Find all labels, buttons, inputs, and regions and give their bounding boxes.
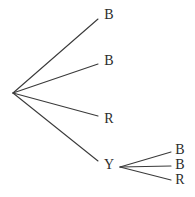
node-label-b1: B — [104, 7, 113, 22]
branch-root-to-b2 — [13, 64, 98, 93]
branch-y-to-b2 — [120, 166, 171, 167]
subnode-label-r1: R — [175, 172, 185, 187]
branch-root-to-y1 — [13, 93, 98, 161]
subnode-label-b1: B — [175, 142, 184, 157]
level1-labels: B B R Y — [104, 7, 114, 172]
branch-root-to-r1 — [13, 93, 98, 116]
probability-tree-diagram: B B R Y B B R — [0, 0, 195, 197]
subnode-label-b2: B — [175, 157, 184, 172]
node-label-y1: Y — [104, 157, 114, 172]
branch-root-to-b1 — [13, 19, 98, 93]
level1-branches — [13, 19, 98, 161]
subtree-branches — [120, 152, 171, 180]
node-label-r1: R — [104, 111, 114, 126]
branch-y-to-b1 — [120, 152, 171, 167]
branch-y-to-r1 — [120, 167, 171, 180]
subtree-labels: B B R — [175, 142, 185, 187]
node-label-b2: B — [104, 53, 113, 68]
